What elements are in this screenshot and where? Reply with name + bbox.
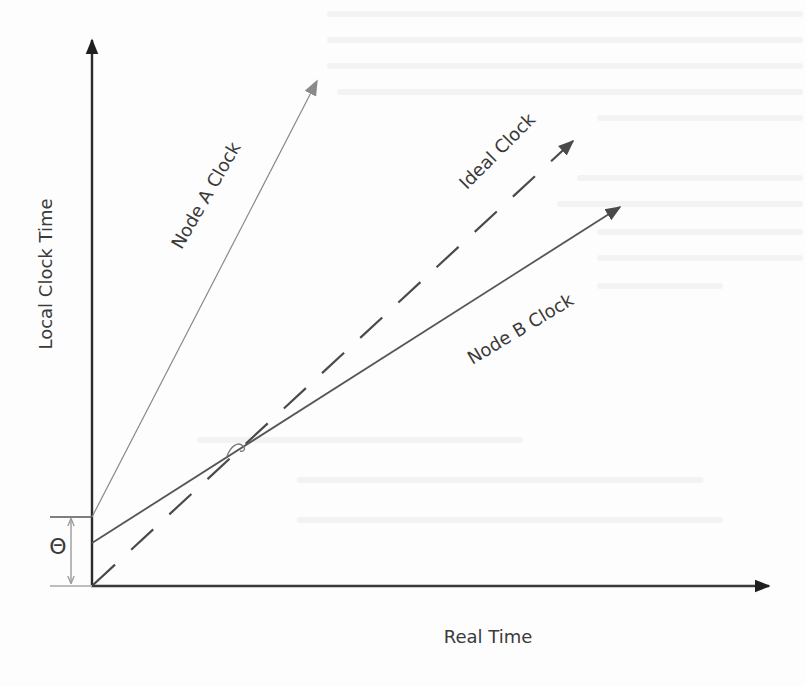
ideal-clock-line xyxy=(93,141,573,585)
diagram-page: Local Clock Time Real Time Node A Clock … xyxy=(0,0,805,686)
node-b-clock-line xyxy=(92,207,620,543)
intersection-marker xyxy=(227,444,244,456)
node-a-clock-label: Node A Clock xyxy=(167,138,245,253)
y-axis-label: Local Clock Time xyxy=(35,198,56,349)
node-b-clock-label: Node B Clock xyxy=(464,289,578,369)
node-a-clock-line xyxy=(92,81,317,517)
clock-skew-diagram: Local Clock Time Real Time Node A Clock … xyxy=(0,0,805,686)
ideal-clock-label: Ideal Clock xyxy=(455,108,540,193)
offset-theta-symbol: Θ xyxy=(49,534,66,559)
x-axis-label: Real Time xyxy=(444,626,533,647)
